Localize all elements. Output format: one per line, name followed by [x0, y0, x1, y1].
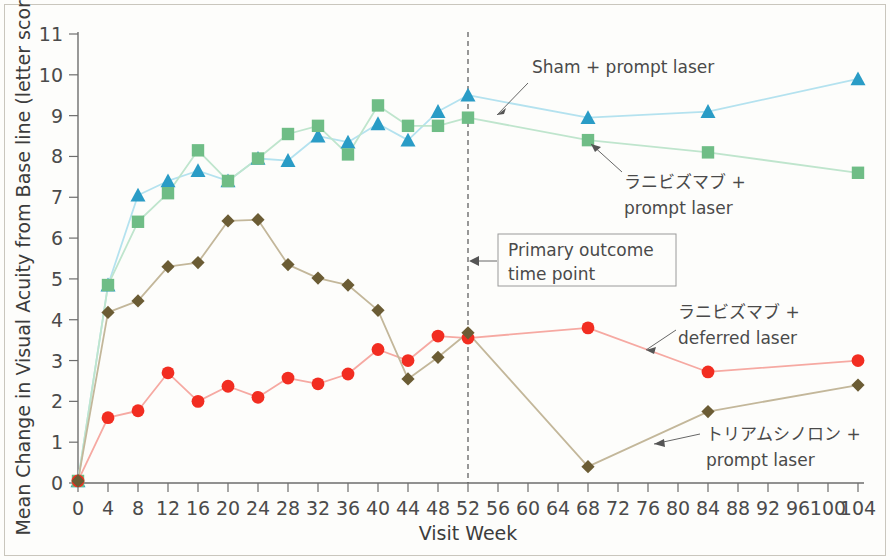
figure-root: 0123456789101104812162024283236404448525… — [0, 0, 890, 560]
data-point-square — [162, 187, 174, 199]
data-point-circle — [702, 366, 715, 379]
x-tick-label: 64 — [546, 497, 570, 519]
y-tick-label: 4 — [51, 309, 63, 331]
x-tick-label: 44 — [396, 497, 420, 519]
data-point-square — [702, 146, 714, 158]
x-tick-label: 76 — [636, 497, 660, 519]
data-point-triangle — [191, 163, 206, 177]
x-tick-label: 40 — [366, 497, 390, 519]
data-point-diamond — [701, 405, 714, 418]
x-tick-label: 20 — [216, 497, 240, 519]
data-point-diamond — [401, 372, 414, 385]
x-tick-label: 48 — [426, 497, 450, 519]
data-point-triangle — [131, 188, 146, 202]
data-point-square — [252, 152, 264, 164]
data-point-square — [852, 167, 864, 179]
x-tick-label: 104 — [840, 497, 876, 519]
data-point-square — [372, 99, 384, 111]
data-point-circle — [312, 377, 325, 390]
y-tick-label: 8 — [51, 145, 63, 167]
x-tick-label: 52 — [456, 497, 480, 519]
annotation-sham-prompt-laser: Sham + prompt laser — [532, 57, 714, 77]
annotation-primary-outcome-line1: Primary outcome — [508, 240, 654, 260]
data-point-diamond — [851, 378, 864, 391]
leader-arrow-triam — [654, 439, 665, 447]
leader-arrow-ranib-prompt — [591, 144, 601, 152]
y-axis-title: Mean Change in Visual Acuity from Base l… — [12, 0, 34, 536]
annotation-triamcinolone-prompt-laser-line2: prompt laser — [706, 450, 815, 470]
data-point-diamond — [221, 214, 234, 227]
data-point-circle — [192, 395, 205, 408]
x-tick-label: 68 — [576, 497, 600, 519]
y-tick-label: 7 — [51, 186, 63, 208]
data-point-square — [282, 128, 294, 140]
data-point-diamond — [251, 213, 264, 226]
annotation-ranibizumab-deferred-laser-line1: ラニビズマブ + — [678, 302, 800, 322]
data-point-square — [312, 120, 324, 132]
x-tick-label: 84 — [696, 497, 720, 519]
leader-arrow-sham — [497, 108, 506, 115]
data-point-triangle — [851, 71, 866, 85]
x-axis-title: Visit Week — [419, 522, 518, 544]
data-point-triangle — [161, 173, 176, 187]
leader-arrow-primary-outcome — [469, 256, 479, 266]
annotation-ranibizumab-deferred-laser-line2: deferred laser — [678, 328, 797, 348]
data-point-diamond — [191, 256, 204, 269]
y-tick-label: 9 — [51, 105, 63, 127]
x-tick-label: 80 — [666, 497, 690, 519]
data-point-circle — [852, 354, 865, 367]
annotation-ranibizumab-prompt-laser-line2: prompt laser — [624, 198, 733, 218]
x-tick-label: 72 — [606, 497, 630, 519]
chart-canvas: 0123456789101104812162024283236404448525… — [0, 0, 890, 560]
y-tick-label: 1 — [51, 431, 63, 453]
data-point-square — [432, 120, 444, 132]
y-tick-label: 5 — [51, 268, 63, 290]
data-point-triangle — [431, 104, 446, 118]
leader-sham — [497, 83, 528, 115]
data-point-square — [102, 279, 114, 291]
data-point-square — [132, 216, 144, 228]
data-point-circle — [132, 404, 145, 417]
x-tick-label: 16 — [186, 497, 210, 519]
x-tick-label: 24 — [246, 497, 270, 519]
y-tick-label: 6 — [51, 227, 63, 249]
data-point-circle — [582, 321, 595, 334]
x-tick-label: 12 — [156, 497, 180, 519]
annotation-primary-outcome-line2: time point — [508, 264, 596, 284]
x-tick-label: 28 — [276, 497, 300, 519]
data-point-circle — [402, 354, 415, 367]
data-point-circle — [222, 380, 235, 393]
x-tick-label: 92 — [756, 497, 780, 519]
data-point-square — [402, 120, 414, 132]
y-tick-label: 0 — [51, 472, 63, 494]
x-tick-label: 0 — [72, 497, 84, 519]
data-point-circle — [162, 366, 175, 379]
data-point-square — [192, 144, 204, 156]
leader-ranib-deferred — [646, 330, 676, 350]
data-point-triangle — [371, 116, 386, 130]
data-point-diamond — [311, 271, 324, 284]
data-point-square — [222, 175, 234, 187]
y-tick-label: 10 — [39, 64, 63, 86]
data-point-circle — [102, 411, 115, 424]
x-tick-label: 4 — [102, 497, 114, 519]
x-tick-label: 32 — [306, 497, 330, 519]
annotation-triamcinolone-prompt-laser-line1: トリアムシノロン + — [706, 424, 861, 444]
data-point-square — [342, 148, 354, 160]
data-point-circle — [432, 330, 445, 343]
data-point-circle — [252, 391, 265, 404]
data-point-triangle — [461, 88, 476, 102]
x-tick-label: 36 — [336, 497, 360, 519]
y-tick-label: 11 — [39, 23, 63, 45]
annotation-ranibizumab-prompt-laser-line1: ラニビズマブ + — [624, 172, 746, 192]
y-tick-label: 2 — [51, 390, 63, 412]
data-point-circle — [342, 368, 355, 381]
x-tick-label: 8 — [132, 497, 144, 519]
x-tick-label: 88 — [726, 497, 750, 519]
data-point-circle — [282, 372, 295, 385]
x-tick-label: 60 — [516, 497, 540, 519]
x-tick-label: 56 — [486, 497, 510, 519]
x-tick-label: 96 — [786, 497, 810, 519]
data-point-circle — [372, 343, 385, 356]
data-point-diamond — [281, 258, 294, 271]
